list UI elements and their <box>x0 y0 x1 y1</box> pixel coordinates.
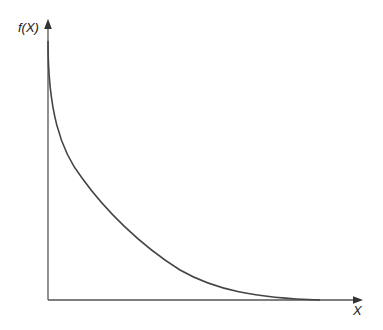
x-axis-label: X <box>353 303 362 318</box>
curve <box>48 41 320 300</box>
y-axis-label: f(X) <box>18 20 39 35</box>
chart-canvas <box>0 0 383 330</box>
